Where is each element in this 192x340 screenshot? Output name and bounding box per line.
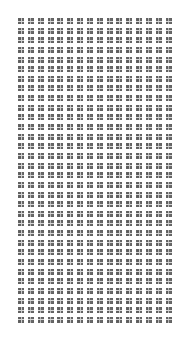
motif-edge (77, 163, 83, 169)
motif-edge (67, 134, 73, 140)
motif-cell (107, 298, 113, 304)
motif-cell (136, 182, 142, 188)
motif-cell (116, 47, 122, 53)
motif-cell (67, 182, 73, 188)
motif-edge (126, 163, 132, 169)
motif-edge (107, 37, 113, 43)
motif-cell (87, 298, 93, 304)
motif-cell (156, 220, 162, 226)
motif-cell (57, 211, 63, 217)
motif-cell (146, 134, 152, 140)
motif-cell (156, 278, 162, 284)
motif-edge (28, 220, 34, 226)
motif-edge (57, 18, 63, 24)
motif-cell (166, 307, 172, 313)
motif-cell (87, 85, 93, 91)
motif-cell (146, 182, 152, 188)
motif-cell (48, 307, 54, 313)
motif-edge (28, 182, 34, 188)
motif-cell (166, 95, 172, 101)
motif-edge (156, 307, 162, 313)
motif-edge (18, 114, 24, 120)
motif-edge (48, 269, 54, 275)
motif-cell (48, 28, 54, 34)
motif-cell (107, 288, 113, 294)
motif-edge (18, 143, 24, 149)
motif-cell (107, 105, 113, 111)
motif-cell (67, 230, 73, 236)
motif-edge (57, 269, 63, 275)
motif-cell (146, 76, 152, 82)
motif-cell (77, 259, 83, 265)
motif-edge (48, 124, 54, 130)
motif-cell (146, 114, 152, 120)
motif-cell (77, 57, 83, 63)
motif-edge (107, 307, 113, 313)
motif-edge (146, 317, 152, 323)
motif-edge (116, 76, 122, 82)
motif-edge (116, 57, 122, 63)
motif-cell (67, 95, 73, 101)
motif-cell (116, 37, 122, 43)
motif-cell (126, 124, 132, 130)
motif-cell (57, 85, 63, 91)
motif-edge (57, 317, 63, 323)
motif-cell (146, 230, 152, 236)
motif-cell (18, 66, 24, 72)
motif-cell (28, 57, 34, 63)
motif-cell (77, 201, 83, 207)
motif-edge (77, 66, 83, 72)
motif-edge (97, 143, 103, 149)
motif-edge (166, 47, 172, 53)
motif-edge (57, 95, 63, 101)
motif-cell (57, 105, 63, 111)
motif-cell (77, 143, 83, 149)
motif-cell (166, 105, 172, 111)
motif-cell (136, 47, 142, 53)
motif-edge (146, 240, 152, 246)
motif-cell (156, 105, 162, 111)
motif-edge (136, 230, 142, 236)
motif-cell (126, 143, 132, 149)
motif-cell (87, 288, 93, 294)
motif-edge (126, 153, 132, 159)
motif-cell (57, 220, 63, 226)
motif-cell (67, 114, 73, 120)
motif-edge (57, 259, 63, 265)
motif-cell (38, 163, 44, 169)
motif-edge (67, 85, 73, 91)
motif-edge (18, 47, 24, 53)
motif-edge (107, 114, 113, 120)
motif-cell (18, 124, 24, 130)
motif-edge (48, 307, 54, 313)
motif-edge (136, 269, 142, 275)
motif-edge (116, 201, 122, 207)
motif-cell (87, 259, 93, 265)
motif-edge (57, 278, 63, 284)
motif-cell (107, 134, 113, 140)
motif-cell (166, 114, 172, 120)
motif-edge (67, 105, 73, 111)
motif-edge (38, 317, 44, 323)
motif-edge (77, 37, 83, 43)
motif-cell (57, 192, 63, 198)
motif-cell (97, 249, 103, 255)
motif-edge (67, 76, 73, 82)
motif-edge (18, 18, 24, 24)
motif-cell (126, 192, 132, 198)
motif-edge (18, 95, 24, 101)
motif-edge (18, 28, 24, 34)
motif-cell (126, 114, 132, 120)
motif-edge (38, 114, 44, 120)
motif-cell (126, 269, 132, 275)
motif-edge (136, 211, 142, 217)
motif-cell (67, 57, 73, 63)
motif-cell (126, 249, 132, 255)
motif-edge (18, 307, 24, 313)
motif-edge (77, 105, 83, 111)
motif-cell (67, 143, 73, 149)
motif-edge (18, 134, 24, 140)
motif-cell (48, 105, 54, 111)
motif-cell (166, 134, 172, 140)
motif-edge (126, 28, 132, 34)
